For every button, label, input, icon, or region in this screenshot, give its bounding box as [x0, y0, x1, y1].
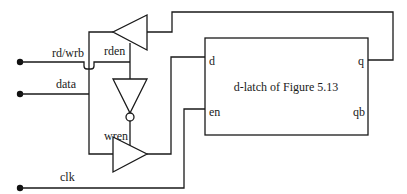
- circuit-diagram: d-latch of Figure 5.13 d en q qb rden rd…: [0, 0, 407, 194]
- port-qb-label: qb: [353, 105, 365, 119]
- port-en-label: en: [209, 105, 220, 119]
- rd-wrb-label: rd/wrb: [52, 46, 84, 60]
- clk-label: clk: [60, 170, 75, 184]
- inverter-bubble: [126, 113, 134, 121]
- port-d-label: d: [209, 54, 215, 68]
- d-input-wire: [147, 57, 205, 154]
- port-q-label: q: [358, 54, 364, 68]
- rden-label: rden: [104, 44, 125, 58]
- data-label: data: [56, 77, 77, 91]
- inverter: [113, 79, 147, 113]
- d-latch-title: d-latch of Figure 5.13: [234, 80, 339, 94]
- rd-wrb-wire: [20, 62, 130, 69]
